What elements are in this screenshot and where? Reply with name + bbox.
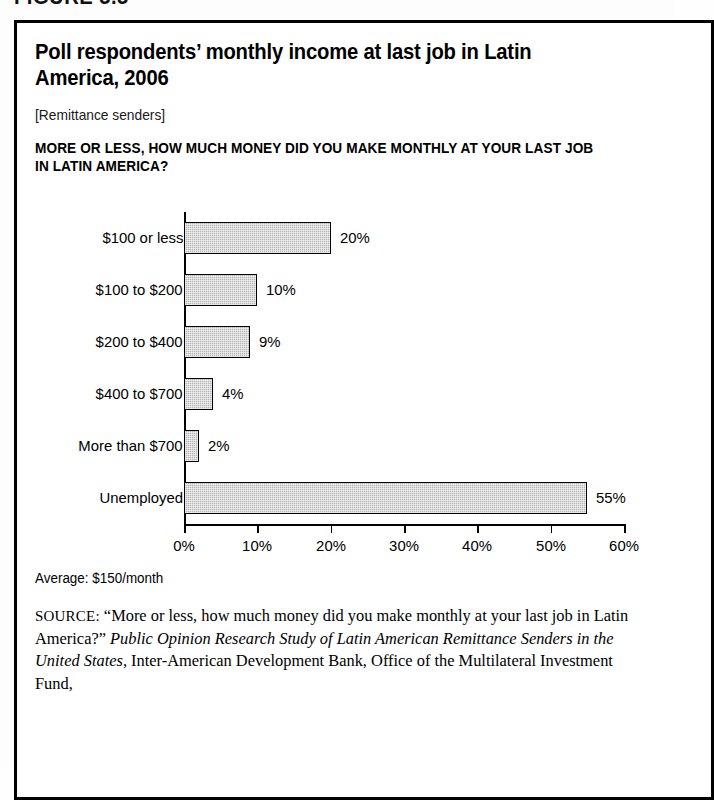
bar-value-label: 9% [259,333,281,351]
figure-subtitle: [Remittance senders] [35,107,616,123]
x-tick [551,524,553,533]
x-tick [184,524,186,533]
bar [184,222,331,254]
x-tick [624,524,626,533]
source-label: SOURCE: [35,608,100,624]
bar-value-label: 55% [596,489,626,507]
bar [184,326,250,358]
figure-content: Poll respondents’ monthly income at last… [17,23,647,696]
bar [184,274,257,306]
x-tick-label: 0% [155,537,213,555]
x-tick [404,524,406,533]
bar-value-label: 10% [266,281,296,299]
bar-row: More than $7002% [35,430,645,462]
x-tick [331,524,333,533]
bar-row: $100 or less20% [35,222,645,254]
category-label: $100 to $200 [96,281,183,299]
category-label: $400 to $700 [96,385,183,403]
bar-row: Unemployed55% [35,482,645,514]
category-label: $100 or less [102,229,183,247]
x-tick-label: 10% [229,537,287,555]
figure-number: FIGURE 5.5 [14,0,129,10]
bar-chart: $100 or less20%$100 to $20010%$200 to $4… [35,204,645,554]
bar [184,430,199,462]
average-note: Average: $150/month [35,570,623,586]
source-citation: SOURCE: “More or less, how much money di… [35,605,632,696]
category-label: Unemployed [99,489,183,507]
y-axis-line [184,212,186,524]
bar-row: $400 to $7004% [35,378,645,410]
bar [184,482,587,514]
x-tick-label: 60% [595,537,653,555]
x-tick-label: 20% [302,537,360,555]
x-tick-label: 40% [449,537,507,555]
x-tick-label: 50% [522,537,580,555]
poll-question: MORE OR LESS, HOW MUCH MONEY DID YOU MAK… [35,139,599,176]
bar-row: $200 to $4009% [35,326,645,358]
x-tick-label: 30% [375,537,433,555]
x-tick [257,524,259,533]
bar [184,378,213,410]
figure-title: Poll respondents’ monthly income at last… [35,39,599,92]
bar-value-label: 2% [208,437,230,455]
bar-value-label: 20% [340,229,370,247]
bar-value-label: 4% [222,385,244,403]
x-tick [477,524,479,533]
bar-row: $100 to $20010% [35,274,645,306]
category-label: More than $700 [79,437,183,455]
figure-frame: Poll respondents’ monthly income at last… [14,20,714,800]
category-label: $200 to $400 [96,333,183,351]
